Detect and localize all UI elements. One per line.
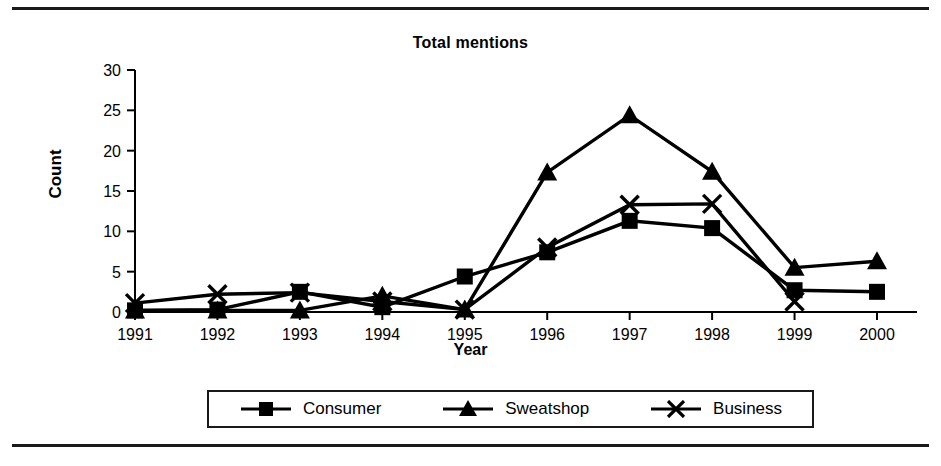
x-tick-label: 1994 bbox=[365, 326, 401, 343]
legend-label-sweatshop: Sweatshop bbox=[505, 399, 589, 419]
legend-label-business: Business bbox=[713, 399, 782, 419]
figure-page: Total mentions Count Year 051015202530 1… bbox=[0, 0, 941, 466]
y-tick-label: 5 bbox=[112, 264, 121, 281]
y-tick-label: 25 bbox=[103, 102, 121, 119]
series-line-sweatshop bbox=[135, 115, 877, 310]
data-point-marker-triangle bbox=[620, 105, 640, 123]
legend-item-consumer: Consumer bbox=[239, 399, 381, 419]
data-point-marker-square bbox=[704, 220, 720, 236]
legend-item-business: Business bbox=[649, 399, 782, 419]
line-chart-figure: Total mentions Count Year 051015202530 1… bbox=[0, 14, 941, 434]
x-tick-label: 1993 bbox=[282, 326, 318, 343]
legend-item-sweatshop: Sweatshop bbox=[441, 399, 589, 419]
data-point-marker-triangle bbox=[537, 162, 557, 180]
legend-marker-cross-x-icon bbox=[649, 400, 703, 418]
x-tick-label: 1996 bbox=[529, 326, 565, 343]
data-point-marker-square bbox=[457, 269, 473, 285]
plot-area: 051015202530 199119921993199419951996199… bbox=[0, 14, 941, 374]
x-tick-label: 1999 bbox=[777, 326, 813, 343]
x-tick-label: 1995 bbox=[447, 326, 483, 343]
x-tick-label: 1992 bbox=[200, 326, 236, 343]
x-axis: 1991199219931994199519961997199819992000 bbox=[117, 312, 917, 343]
x-tick-label: 1991 bbox=[117, 326, 153, 343]
x-tick-label: 1997 bbox=[612, 326, 648, 343]
y-tick-label: 10 bbox=[103, 223, 121, 240]
data-point-marker-square bbox=[622, 213, 638, 229]
y-tick-label: 30 bbox=[103, 62, 121, 79]
y-tick-label: 20 bbox=[103, 143, 121, 160]
chart-legend: Consumer Sweatshop Business bbox=[207, 390, 814, 428]
series-line-business bbox=[135, 204, 795, 310]
x-tick-label: 1998 bbox=[694, 326, 730, 343]
page-bottom-rule bbox=[12, 444, 929, 447]
page-top-rule bbox=[12, 7, 929, 10]
y-axis: 051015202530 bbox=[103, 62, 135, 321]
y-tick-label: 0 bbox=[112, 304, 121, 321]
data-point-marker-triangle bbox=[702, 162, 722, 180]
legend-marker-square-icon bbox=[239, 400, 293, 418]
y-tick-label: 15 bbox=[103, 183, 121, 200]
x-tick-label: 2000 bbox=[859, 326, 895, 343]
data-series-group bbox=[125, 105, 887, 318]
legend-marker-triangle-icon bbox=[441, 400, 495, 418]
data-point-marker-square bbox=[869, 284, 885, 300]
legend-label-consumer: Consumer bbox=[303, 399, 381, 419]
